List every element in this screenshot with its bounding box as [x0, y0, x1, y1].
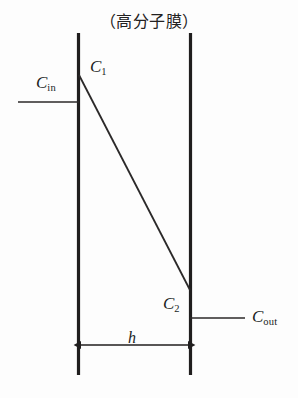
label-c-out-symbol: C	[252, 307, 263, 326]
label-thickness-h: h	[128, 330, 136, 346]
label-c-2-subscript: 2	[174, 303, 179, 314]
label-c-out: Cout	[252, 308, 277, 325]
label-c-in-symbol: C	[36, 73, 47, 92]
label-c-1: C1	[90, 58, 107, 75]
concentration-profile-line	[79, 75, 190, 290]
label-c-2: C2	[163, 295, 180, 312]
concentration-profile-figure: （高分子膜） Cin C1 C2 Cout h	[0, 0, 298, 398]
label-c-in-subscript: in	[47, 82, 56, 93]
label-c-in: Cin	[36, 74, 56, 91]
label-c-1-symbol: C	[90, 57, 101, 76]
label-c-1-subscript: 1	[101, 66, 106, 77]
figure-drawing	[0, 0, 298, 398]
label-c-out-subscript: out	[263, 316, 277, 327]
label-c-2-symbol: C	[163, 294, 174, 313]
